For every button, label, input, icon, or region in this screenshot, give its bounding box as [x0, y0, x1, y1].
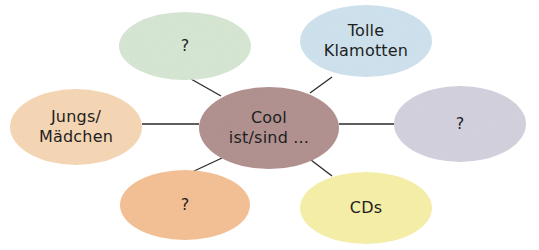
node-ellipses — [10, 5, 526, 244]
connector-bottom-left — [192, 158, 222, 172]
ellipse-top-right — [300, 5, 432, 77]
ellipse-top-left — [119, 12, 251, 80]
mind-map-diagram — [0, 0, 539, 250]
connector-bottom-right — [311, 160, 332, 176]
connector-top-right — [310, 77, 332, 93]
ellipse-right — [394, 86, 526, 162]
ellipse-bottom-right — [300, 172, 432, 244]
ellipse-center — [199, 87, 339, 169]
connector-top-left — [191, 79, 221, 96]
ellipse-left — [10, 89, 142, 165]
ellipse-bottom-left — [120, 170, 250, 240]
